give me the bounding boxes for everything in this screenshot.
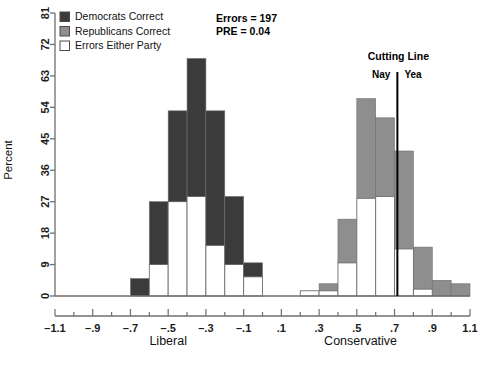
x-axis-tick-label: –1.1 [44,322,65,334]
histogram-bar [338,219,357,296]
histogram-bar [376,118,395,296]
bar-segment-errors [300,291,319,296]
bar-segment-errors [225,265,244,296]
bar-segment-party [206,111,225,246]
legend-label: Errors Either Party [75,39,162,51]
bar-segment-errors [376,196,395,296]
bar-segment-party [319,284,338,291]
legend-label: Democrats Correct [75,10,163,22]
y-axis-tick-label: 27 [39,196,51,208]
histogram-bar [225,196,244,296]
x-axis-tick-label: –.5 [161,322,176,334]
histogram-bar [451,284,470,296]
y-axis-tick-label: 45 [39,133,51,145]
histogram-bar [168,111,187,296]
x-axis-tick-label: .9 [428,322,437,334]
bar-segment-party [338,219,357,263]
x-axis-tick-label: .1 [277,322,286,334]
legend: Democrats CorrectRepublicans CorrectErro… [60,10,170,51]
legend-swatch [60,12,70,22]
x-axis-label-conservative: Conservative [324,334,397,348]
x-axis-tick-label: –.3 [198,322,213,334]
histogram-bar [206,111,225,296]
bar-segment-party [225,196,244,264]
histogram-bar [130,279,149,296]
histogram-bar [187,58,206,296]
y-axis-tick-label: 54 [39,100,51,113]
legend-swatch [60,41,70,51]
y-axis-label: Percent [2,139,14,179]
x-axis-tick-label: .5 [352,322,361,334]
bar-segment-errors [206,245,225,296]
y-axis-tick-label: 9 [39,261,51,267]
annotation-errors: Errors = 197 [216,12,277,24]
histogram-bar [413,247,432,296]
bar-segment-errors [413,289,432,296]
x-axis-tick-label: –.1 [236,322,251,334]
y-axis-tick-label: 0 [39,293,51,299]
annotation-pre: PRE = 0.04 [216,25,270,37]
bar-segment-party [130,279,149,296]
histogram-bar [319,284,338,296]
bar-segment-errors [168,202,187,296]
bar-segment-party [413,247,432,289]
annotations-layer: Errors = 197PRE = 0.04 [216,12,277,37]
x-axis-tick-label: 1.1 [462,322,477,334]
bar-segment-errors [244,277,263,296]
histogram-bar [357,99,376,296]
y-axis-tick-label: 18 [39,227,51,239]
legend-label: Republicans Correct [75,25,170,37]
cutting-line-label: Cutting Line [368,50,429,62]
bar-segment-errors [149,265,168,296]
y-axis-tick-label: 72 [39,38,51,50]
histogram-chart: 091827364554637281–1.1–.9–.7–.5–.3–.1.1.… [0,0,480,365]
histogram-bar [149,202,168,296]
x-axis-tick-label: –.7 [123,322,138,334]
bar-segment-errors [319,291,338,296]
bar-segment-errors [187,196,206,296]
histogram-bar [244,263,263,296]
y-axis-tick-label: 81 [39,7,51,19]
cutting-line-nay-label: Nay [372,69,391,80]
y-axis-tick-label: 63 [39,70,51,82]
x-axis-tick-label: .3 [314,322,323,334]
bar-segment-party [187,58,206,196]
x-axis-label-liberal: Liberal [149,334,187,348]
bar-segment-party [168,111,187,202]
bar-segment-errors [357,198,376,296]
histogram-bar [432,280,451,296]
chart-canvas: 091827364554637281–1.1–.9–.7–.5–.3–.1.1.… [0,0,480,365]
bar-segment-party [451,284,470,296]
y-axis-tick-label: 36 [39,164,51,176]
bar-segment-errors [338,263,357,296]
cutting-line-yea-label: Yea [404,69,422,80]
bar-segment-party [432,280,451,296]
bar-segment-party [357,99,376,199]
legend-swatch [60,27,70,37]
bar-segment-party [376,118,395,197]
bar-segment-party [244,263,263,277]
bar-segment-party [149,202,168,265]
x-axis-tick-label: –.9 [85,322,100,334]
x-axis-tick-label: .7 [390,322,399,334]
histogram-bar [300,291,319,296]
